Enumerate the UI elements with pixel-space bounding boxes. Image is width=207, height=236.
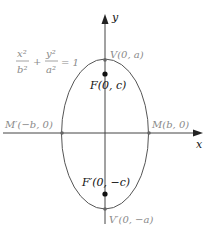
ellipse-diagram: x² b² + y² a² = 1 y x V(0, a) F(0, c) M′… bbox=[0, 0, 207, 236]
diagram-canvas: x² b² + y² a² = 1 y x V(0, a) F(0, c) M′… bbox=[0, 0, 207, 236]
equation-plus: + bbox=[33, 56, 41, 67]
label-m: M(b, 0) bbox=[151, 119, 189, 130]
label-v: V(0, a) bbox=[110, 49, 144, 60]
ellipse-equation: x² b² + y² a² = 1 bbox=[16, 48, 79, 75]
label-f: F(0, c) bbox=[89, 79, 126, 92]
x-axis-label: x bbox=[196, 138, 203, 151]
y-axis-arrow-icon bbox=[102, 14, 109, 24]
label-m-prime: M′(−b, 0) bbox=[4, 119, 53, 130]
label-f-prime: F′(0, −c) bbox=[81, 176, 130, 189]
label-v-prime: V′(0, −a) bbox=[109, 214, 153, 225]
x-axis-arrow-icon bbox=[193, 130, 203, 137]
focus-f-prime-point bbox=[102, 191, 107, 196]
vertex-v-prime-point bbox=[103, 207, 107, 211]
co-vertex-m-prime-point bbox=[60, 131, 64, 135]
equation-y-numerator: y² bbox=[45, 48, 56, 59]
co-vertex-m-point bbox=[147, 131, 151, 135]
y-axis-label: y bbox=[111, 11, 119, 24]
equation-x-numerator: x² bbox=[17, 48, 27, 59]
focus-f-point bbox=[102, 71, 107, 76]
equation-rhs: = 1 bbox=[61, 57, 79, 68]
equation-x-denominator: b² bbox=[17, 64, 27, 75]
vertex-v-point bbox=[103, 58, 107, 62]
equation-y-denominator: a² bbox=[46, 64, 56, 75]
